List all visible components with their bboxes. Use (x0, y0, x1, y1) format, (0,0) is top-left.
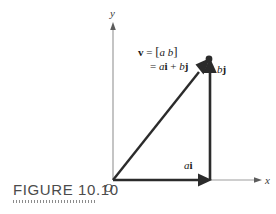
y-component-unit-vector-j: j (223, 63, 227, 75)
vector-line2-unit-vector-j: j (185, 60, 189, 72)
x-component-vector (113, 174, 212, 187)
figure-caption-block: FIGURE 10.10 (13, 181, 119, 203)
vector-definition-line1: v = [a b] (138, 46, 178, 58)
y-component-vector (203, 58, 217, 180)
figure-caption-dotted-rule (13, 200, 97, 203)
y-axis-arrowhead (110, 22, 116, 30)
vector-line2-plus: + (170, 60, 176, 72)
row-vector-component-a: a (160, 46, 166, 58)
figure-10-10: y x O ai bj v = [a b] = ai + bj FIGURE 1… (0, 0, 276, 214)
y-axis-label: y (110, 8, 115, 19)
vector-name-v: v (138, 46, 144, 58)
vector-line1-equals: = (146, 46, 152, 58)
row-vector-bracket-open: [ (155, 45, 159, 60)
vector-definition-label: v = [a b] = ai + bj (138, 45, 188, 73)
vector-definition-line2: = ai + bj (138, 60, 188, 73)
vector-tip-node (206, 56, 213, 63)
x-component-unit-vector-i: i (190, 159, 193, 171)
x-component-label: ai (184, 160, 193, 171)
y-component-label: bj (217, 64, 226, 75)
row-vector-bracket-close: ] (173, 45, 177, 60)
x-axis-label: x (265, 175, 270, 186)
x-axis-arrowhead (254, 177, 262, 183)
vector-line2-equals: = (150, 60, 156, 72)
figure-caption-text: FIGURE 10.10 (13, 181, 119, 198)
resultant-vector-v (113, 58, 210, 180)
vector-line2-unit-vector-i: i (164, 60, 167, 72)
